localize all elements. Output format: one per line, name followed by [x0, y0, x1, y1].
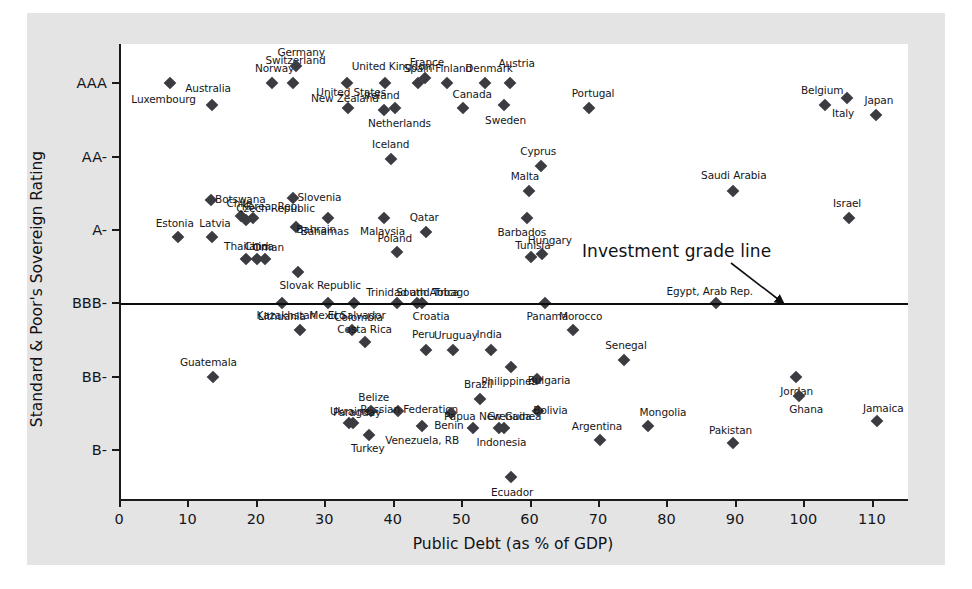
data-point-label: Ghana — [789, 403, 823, 415]
x-axis-tick-label: 90 — [726, 511, 744, 527]
x-axis-tick-label: 70 — [589, 511, 607, 527]
annotation-arrow-icon — [727, 259, 807, 319]
data-point-marker — [206, 231, 219, 244]
plot-area: LuxembourgAustraliaNorwaySwitzerlandGerm… — [119, 44, 908, 501]
data-point-label: Argentina — [572, 420, 622, 432]
data-point-marker — [384, 153, 397, 166]
y-axis-tick-mark — [112, 376, 119, 378]
data-point-label: Estonia — [156, 217, 194, 229]
data-point-marker — [207, 370, 220, 383]
x-axis-tick-label: 110 — [858, 511, 886, 527]
data-point-label: Germany — [277, 46, 325, 58]
data-point-label: Senegal — [605, 339, 647, 351]
data-point-label: Australia — [185, 82, 231, 94]
data-point-marker — [447, 343, 460, 356]
x-axis-tick-label: 20 — [247, 511, 265, 527]
data-point-label: Italy — [832, 107, 854, 119]
data-point-marker — [287, 77, 300, 90]
data-point-label: Saudi Arabia — [701, 169, 766, 181]
data-point-marker — [457, 101, 470, 114]
data-point-label: Poland — [378, 232, 412, 244]
data-point-marker — [390, 246, 403, 259]
data-point-label: Ireland — [364, 89, 400, 101]
y-axis-tick-label: AAA — [76, 75, 107, 91]
data-point-marker — [259, 253, 272, 266]
data-point-label: Brazil — [464, 378, 493, 390]
x-axis-tick-label: 40 — [384, 511, 402, 527]
data-point-marker — [503, 77, 516, 90]
data-point-marker — [583, 101, 596, 114]
data-point-label: Latvia — [199, 217, 230, 229]
data-point-marker — [440, 77, 453, 90]
x-axis-title: Public Debt (as % of GDP) — [413, 535, 614, 553]
data-point-marker — [819, 99, 832, 112]
x-axis-tick-label: 30 — [315, 511, 333, 527]
y-axis-tick-label: AA- — [82, 149, 107, 165]
data-point-marker — [497, 99, 510, 112]
y-axis-ticks: AAAAA-A-BBB-BB-B- — [27, 44, 119, 501]
data-point-label: Sweden — [485, 114, 526, 126]
x-axis-tick-mark — [598, 501, 600, 507]
x-axis-tick-mark — [256, 501, 258, 507]
data-point-label: Cyprus — [520, 145, 556, 157]
y-axis-tick-mark — [112, 449, 119, 451]
x-axis-tick-label: 100 — [790, 511, 818, 527]
data-point-label: Paraguay — [333, 406, 381, 418]
data-point-label: Tunisia — [515, 239, 550, 251]
data-point-label: Oman — [253, 241, 284, 253]
data-point-label: Belize — [358, 391, 389, 403]
data-point-marker — [389, 101, 402, 114]
data-point-marker — [505, 361, 518, 374]
y-axis-tick-label: BBB- — [72, 295, 107, 311]
data-point-label: Belgium — [801, 84, 843, 96]
data-point-label: Grenada — [487, 410, 531, 422]
x-axis-tick-label: 60 — [520, 511, 538, 527]
data-point-label: Kazakhstan — [257, 309, 317, 321]
data-point-marker — [358, 336, 371, 349]
data-point-marker — [726, 184, 739, 197]
data-point-label: Netherlands — [368, 117, 431, 129]
data-point-marker — [206, 99, 219, 112]
data-point-label: Slovak Republic — [280, 279, 361, 291]
x-axis-tick-mark — [324, 501, 326, 507]
data-point-marker — [378, 211, 391, 224]
data-point-label: Uruguay — [434, 329, 478, 341]
data-point-label: Bulgaria — [528, 374, 571, 386]
data-point-label: South Africa — [396, 286, 459, 298]
data-point-label: Portugal — [572, 87, 615, 99]
x-axis-tick-mark — [187, 501, 189, 507]
data-point-label: Colombia — [334, 311, 383, 323]
data-point-marker — [377, 104, 390, 117]
x-axis-tick-mark — [530, 501, 532, 507]
data-point-marker — [294, 324, 307, 337]
data-point-label: Slovenia — [298, 191, 342, 203]
y-axis-tick-label: BB- — [82, 369, 107, 385]
data-point-marker — [520, 211, 533, 224]
data-point-label: Turkey — [351, 442, 385, 454]
x-axis-tick-mark — [393, 501, 395, 507]
data-point-label: Mongolia — [640, 406, 687, 418]
data-point-marker — [871, 414, 884, 427]
data-point-marker — [485, 343, 498, 356]
y-axis-tick-label: A- — [92, 222, 107, 238]
data-point-marker — [522, 184, 535, 197]
data-point-label: Guatemala — [180, 356, 237, 368]
data-point-marker — [416, 419, 429, 432]
y-axis-tick-mark — [112, 302, 119, 304]
data-point-marker — [474, 392, 487, 405]
x-axis-tick-mark — [803, 501, 805, 507]
data-point-label: Costa Rica — [337, 323, 392, 335]
data-point-label: Austria — [499, 57, 535, 69]
x-axis-tick-label: 10 — [178, 511, 196, 527]
x-axis-tick-label: 50 — [452, 511, 470, 527]
data-point-marker — [594, 434, 607, 447]
data-point-label: Luxembourg — [131, 93, 195, 105]
data-point-marker — [618, 353, 631, 366]
data-point-label: Morocco — [559, 310, 602, 322]
data-point-marker — [171, 231, 184, 244]
data-point-label: Ecuador — [491, 486, 533, 498]
data-point-label: Canada — [452, 88, 491, 100]
data-point-marker — [505, 471, 518, 484]
y-axis-tick-mark — [112, 82, 119, 84]
data-point-label: Pakistan — [709, 424, 752, 436]
